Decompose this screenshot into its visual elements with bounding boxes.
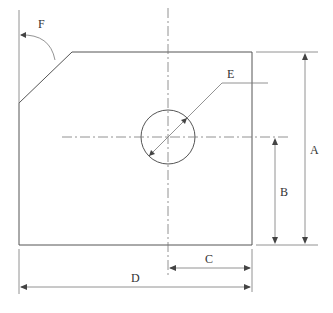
label-B: B — [280, 185, 288, 199]
label-F: F — [38, 17, 45, 31]
dimension-B: B — [272, 138, 288, 244]
dimension-F: F — [19, 10, 55, 103]
plate-outline — [19, 52, 252, 245]
dimension-C: C — [169, 249, 252, 292]
label-C: C — [205, 252, 213, 266]
label-D: D — [131, 271, 140, 285]
dimension-D: D — [19, 249, 251, 294]
dimension-A: A — [256, 52, 319, 245]
dimension-E: E — [149, 67, 268, 156]
label-E: E — [227, 67, 234, 81]
technical-drawing: E F A B C D — [0, 0, 333, 313]
label-A: A — [310, 143, 319, 157]
